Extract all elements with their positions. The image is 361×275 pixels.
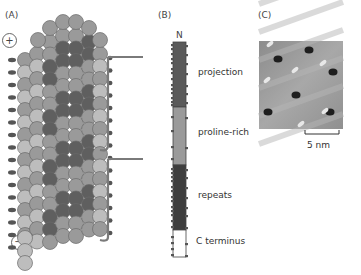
microtubule-lattice-diagram <box>0 0 361 275</box>
projection-label: projection <box>198 67 243 77</box>
scale-bar-label: 5 nm <box>307 140 330 150</box>
c-terminus-label: C terminus <box>196 236 245 246</box>
repeats-label: repeats <box>198 190 232 200</box>
panel-b-label: (B) <box>158 10 171 20</box>
n-terminus-label: N <box>176 30 183 40</box>
panel-c-label: (C) <box>258 10 271 20</box>
proline-rich-label: proline-rich <box>198 127 249 137</box>
